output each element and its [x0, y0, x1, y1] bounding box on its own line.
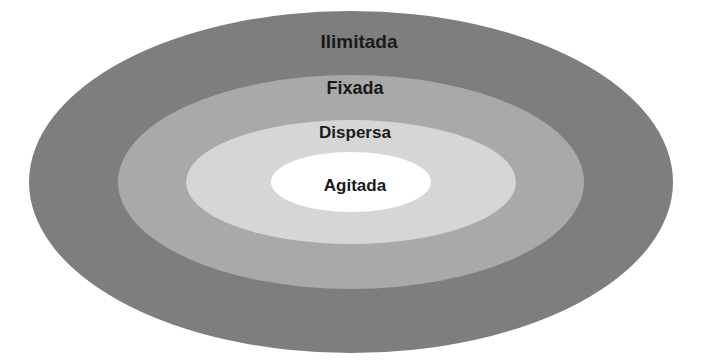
- diagram-canvas: Ilimitada Fixada Dispersa Agitada: [0, 0, 703, 363]
- ring-label-ilimitada: Ilimitada: [320, 31, 398, 52]
- concentric-ellipse-diagram: Ilimitada Fixada Dispersa Agitada: [0, 0, 703, 363]
- ring-label-fixada: Fixada: [326, 78, 384, 98]
- ring-label-dispersa: Dispersa: [319, 123, 391, 142]
- ring-label-agitada: Agitada: [324, 176, 387, 195]
